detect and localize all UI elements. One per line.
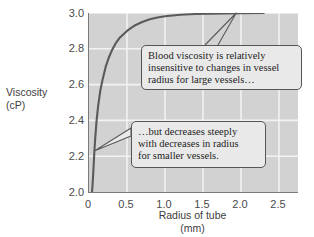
callout-small-vessels: …but decreases steeply with decreases in… — [131, 121, 266, 168]
x-axis-title-line1: Radius of tube — [88, 209, 297, 222]
x-axis-tick-labels: 0 0.5 1.0 1.5 2.0 2.5 — [0, 0, 314, 237]
callout-large-vessels: Blood viscosity is relatively insensitiv… — [141, 45, 302, 90]
callout-line: radius for large vessels… — [148, 74, 295, 86]
y-axis-title-line2: (cP) — [6, 99, 68, 112]
callout-line: for smaller vessels. — [138, 150, 259, 162]
y-axis-title-line1: Viscosity — [6, 86, 68, 99]
chart-screenshot: 2.0 2.2 2.4 2.6 2.8 3.0 0 0.5 1.0 1.5 2.… — [0, 0, 314, 237]
callout-line: insensitive to changes in vessel — [148, 62, 295, 74]
callout-line: Blood viscosity is relatively — [148, 50, 295, 62]
callout-line: …but decreases steeply — [138, 126, 259, 138]
x-axis-title-line2: (mm) — [88, 222, 297, 235]
x-axis-title: Radius of tube (mm) — [88, 209, 297, 235]
callout-line: with decreases in radius — [138, 138, 259, 150]
y-axis-title: Viscosity (cP) — [6, 86, 68, 112]
